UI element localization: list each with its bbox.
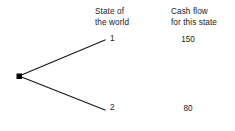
branch-line-1 (19, 40, 105, 76)
root-node (17, 74, 23, 80)
column-header-cash-flow-line2: for this state (171, 17, 217, 28)
column-header-state-of-the-world-line1: State of (95, 6, 129, 17)
column-header-state-of-the-world-line2: the world (95, 17, 129, 28)
column-header-cash-flow: Cash flow for this state (171, 6, 217, 28)
branch-state-label-2: 2 (110, 103, 115, 113)
column-header-state-of-the-world: State of the world (95, 6, 129, 28)
cash-flow-value-1: 150 (168, 35, 208, 45)
branch-line-2 (19, 76, 105, 110)
branch-state-label-1: 1 (110, 34, 115, 44)
cash-flow-value-2: 80 (168, 104, 208, 114)
column-header-cash-flow-line1: Cash flow (171, 6, 217, 17)
event-tree-diagram: State of the world Cash flow for this st… (0, 0, 235, 131)
